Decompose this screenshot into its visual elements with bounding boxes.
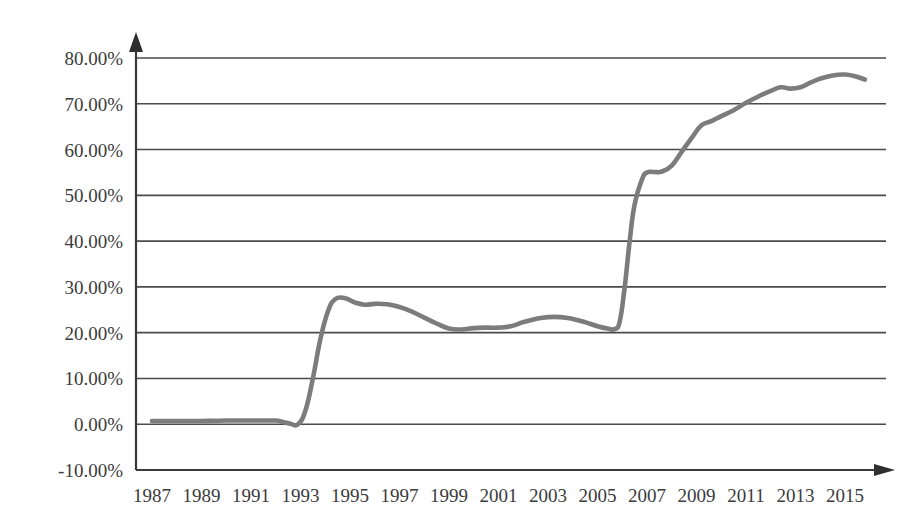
y-tick-label: -10.00% — [58, 460, 123, 481]
x-tick-labels-group: 1987198919911993199519971999200120032005… — [133, 485, 864, 506]
x-axis — [136, 464, 895, 476]
y-tick-label: 30.00% — [64, 277, 123, 298]
data-line-series-0 — [152, 74, 865, 425]
x-tick-label: 2013 — [777, 485, 815, 506]
x-tick-label: 2005 — [579, 485, 617, 506]
x-tick-label: 2003 — [529, 485, 567, 506]
y-tick-label: 60.00% — [64, 140, 123, 161]
x-tick-label: 1999 — [430, 485, 468, 506]
x-tick-label: 2001 — [480, 485, 518, 506]
x-tick-label: 1995 — [331, 485, 369, 506]
x-tick-label: 1993 — [282, 485, 320, 506]
x-axis-arrow-icon — [874, 464, 895, 476]
y-tick-label: 40.00% — [64, 231, 123, 252]
x-tick-label: 2007 — [628, 485, 666, 506]
chart-container: 80.00%70.00%60.00%50.00%40.00%30.00%20.0… — [0, 0, 923, 531]
y-axis — [129, 32, 143, 470]
y-tick-label: 10.00% — [64, 368, 123, 389]
x-tick-label: 2011 — [727, 485, 764, 506]
x-tick-label: 2015 — [826, 485, 864, 506]
x-tick-label: 1989 — [183, 485, 221, 506]
y-tick-label: 70.00% — [64, 94, 123, 115]
y-tick-label: 50.00% — [64, 185, 123, 206]
x-tick-label: 1997 — [381, 485, 419, 506]
data-series-group — [152, 74, 865, 425]
y-tick-label: 0.00% — [74, 414, 123, 435]
y-axis-arrow-icon — [129, 32, 143, 52]
y-tick-label: 20.00% — [64, 323, 123, 344]
x-tick-label: 2009 — [678, 485, 716, 506]
y-tick-labels-group: 80.00%70.00%60.00%50.00%40.00%30.00%20.0… — [58, 48, 123, 481]
x-tick-label: 1991 — [232, 485, 270, 506]
line-chart: 80.00%70.00%60.00%50.00%40.00%30.00%20.0… — [0, 0, 923, 531]
x-tick-label: 1987 — [133, 485, 171, 506]
y-tick-label: 80.00% — [64, 48, 123, 69]
gridlines-group — [136, 58, 886, 424]
